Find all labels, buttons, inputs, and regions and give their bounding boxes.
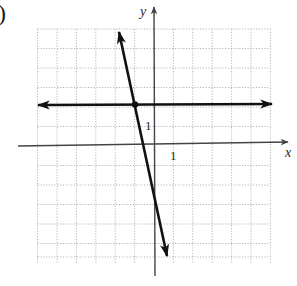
intersection-point bbox=[132, 101, 138, 107]
x-axis-label: x bbox=[285, 146, 291, 160]
x-axis bbox=[18, 142, 288, 146]
axes bbox=[18, 7, 288, 276]
y-tick-label-1: 1 bbox=[145, 119, 152, 132]
coordinate-plane bbox=[0, 0, 297, 286]
y-axis bbox=[154, 7, 155, 276]
y-axis-label: y bbox=[140, 5, 146, 19]
horizontal-line-y-equals-2 bbox=[38, 104, 272, 105]
graph-figure: ) bbox=[0, 0, 297, 286]
x-tick-label-1: 1 bbox=[170, 149, 177, 162]
